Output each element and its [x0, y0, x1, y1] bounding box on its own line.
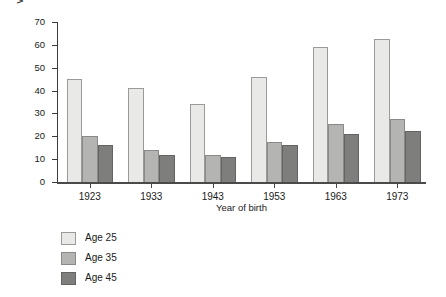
legend-item: Age 25	[61, 229, 117, 247]
legend-color-swatch	[61, 252, 76, 265]
bar	[144, 150, 160, 182]
bar	[98, 145, 114, 182]
y-axis-tick-label: 70	[5, 15, 45, 29]
y-axis-tick-label: 20	[5, 129, 45, 143]
y-axis-tick-label: 60	[5, 38, 45, 52]
bar	[251, 77, 267, 182]
y-axis-tick-label: 40	[5, 84, 45, 98]
bar	[328, 124, 344, 182]
x-axis-tick	[397, 184, 398, 188]
chart-legend: Age 25Age 35Age 45	[61, 229, 117, 289]
legend-color-swatch	[61, 232, 76, 245]
legend-item-label: Age 25	[85, 231, 117, 245]
legend-item-label: Age 45	[85, 271, 117, 285]
y-axis-tick: 0	[52, 182, 57, 183]
x-axis-tick	[90, 184, 91, 188]
bar	[313, 47, 329, 182]
bar	[221, 157, 237, 182]
x-axis-tick	[151, 184, 152, 188]
x-axis-title: Year of birth	[57, 201, 426, 215]
bar	[205, 155, 221, 182]
x-axis-tick	[274, 184, 275, 188]
x-axis-line	[57, 182, 426, 184]
bar	[405, 131, 421, 182]
y-axis-tick-label: 0	[5, 175, 45, 189]
legend-color-swatch	[61, 272, 76, 285]
bar	[344, 134, 360, 182]
plot-area: 010203040506070 192319331943195319631973	[57, 22, 426, 182]
legend-item-label: Age 35	[85, 251, 117, 265]
x-axis-tick	[336, 184, 337, 188]
bar	[374, 39, 390, 182]
legend-item: Age 35	[61, 249, 117, 267]
y-axis-tick-label: 10	[5, 152, 45, 166]
bar	[82, 136, 98, 182]
legend-item: Age 45	[61, 269, 117, 287]
bar	[282, 145, 298, 182]
y-axis-tick-label: 30	[5, 106, 45, 120]
bar	[190, 104, 206, 182]
y-axis-tick-label: 50	[5, 61, 45, 75]
bar	[128, 88, 144, 182]
bar	[390, 119, 406, 182]
bar	[267, 142, 283, 182]
bars-layer	[57, 22, 426, 182]
bar	[67, 79, 83, 182]
x-axis-tick	[213, 184, 214, 188]
bar	[159, 155, 175, 182]
bar-chart-figure: Women childless (%) 010203040506070 1923…	[0, 0, 446, 297]
